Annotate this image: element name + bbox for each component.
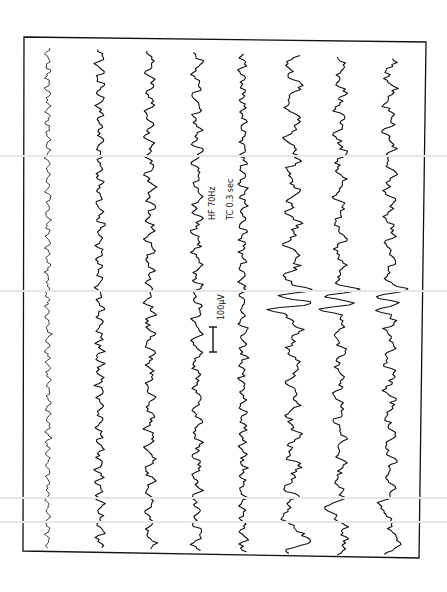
scan-artifact-line xyxy=(0,521,447,523)
eeg-channel-trace xyxy=(376,59,408,555)
scale-bar xyxy=(209,327,217,352)
eeg-channel-trace xyxy=(238,54,249,552)
scan-artifact-line xyxy=(0,497,447,499)
time-constant-label: TC 0.3 sec xyxy=(226,179,235,221)
eeg-channel-trace xyxy=(190,53,203,551)
eeg-channel-trace xyxy=(94,50,105,548)
eeg-plot: 100µV HF 70Hz TC 0.3 sec xyxy=(0,0,447,592)
eeg-channel-trace xyxy=(44,48,52,548)
eeg-figure: 100µV HF 70Hz TC 0.3 sec xyxy=(0,0,447,592)
eeg-channel-trace xyxy=(143,51,158,549)
scale-bar-label: 100µV xyxy=(217,294,226,320)
eeg-channel-trace xyxy=(319,57,360,555)
eeg-channel-trace xyxy=(267,56,312,554)
scan-artifact-line xyxy=(0,155,447,157)
high-frequency-filter-label: HF 70Hz xyxy=(208,186,217,220)
scan-artifact-line xyxy=(0,290,447,292)
